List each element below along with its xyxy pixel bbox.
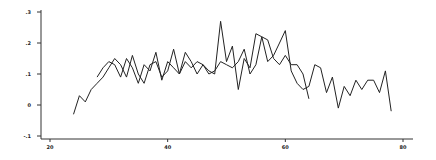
x-tick-label: 60 [282,144,289,150]
line-chart: -.10.1.2.3 20406080 [0,0,436,160]
x-tick-label: 40 [164,144,171,150]
y-tick-label: .2 [26,40,32,46]
x-tick-label: 80 [400,144,407,150]
series-1-line [74,37,309,115]
y-tick-label: -.1 [24,133,32,139]
y-tick-label: .3 [26,9,32,15]
x-tick-label: 20 [47,144,54,150]
series-2-line [97,21,391,111]
x-axis: 20406080 [41,139,413,150]
y-axis: -.10.1.2.3 [24,9,41,139]
y-tick-label: 0 [28,102,32,108]
series-layer [74,21,392,114]
y-tick-label: .1 [26,71,32,77]
